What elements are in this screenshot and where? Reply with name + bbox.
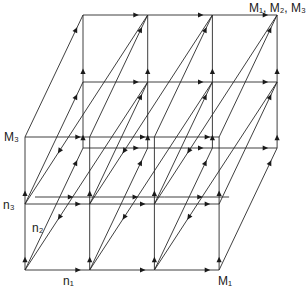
arrow-icon	[187, 214, 192, 220]
edge-n2	[25, 148, 83, 270]
edge-n2	[219, 148, 277, 270]
arrow-icon	[197, 194, 203, 199]
arrow-icon	[22, 257, 27, 263]
edge-n2	[90, 15, 148, 137]
arrow-icon	[217, 191, 222, 197]
lattice-diagram: M₁, M₂, M₃ M₃ n₃ n₂ n₁ M₁	[0, 0, 306, 288]
edge-n2	[25, 82, 83, 204]
arrow-icon	[152, 257, 157, 263]
edge-n2	[25, 15, 83, 137]
arrow-icon	[80, 69, 85, 75]
label-M1: M₁	[218, 275, 232, 287]
arrow-icon	[145, 69, 150, 75]
arrow-icon	[75, 134, 81, 139]
arrow-icon	[75, 267, 81, 272]
arrow-icon	[140, 201, 146, 206]
arrow-icon	[198, 145, 204, 150]
arrow-icon	[133, 12, 139, 17]
arrow-icon	[198, 79, 204, 84]
arrow-icon	[133, 79, 139, 84]
arrow-icon	[217, 257, 222, 263]
arrow-icon	[152, 191, 157, 197]
arrow-icon	[275, 69, 280, 75]
arrow-icon	[133, 145, 139, 150]
arrow-icon	[22, 191, 27, 197]
edge-n2	[219, 82, 277, 204]
arrow-icon	[140, 267, 146, 272]
arrow-icon	[263, 145, 269, 150]
arrow-icon	[123, 214, 128, 220]
arrow-icon	[68, 194, 74, 199]
arrow-icon	[140, 134, 146, 139]
arrow-icon	[275, 135, 280, 141]
arrow-icon	[87, 191, 92, 197]
arrow-icon	[205, 267, 211, 272]
edge-n2	[154, 15, 212, 137]
edge-n2	[90, 148, 148, 270]
arrow-icon	[198, 12, 204, 17]
label-m1-m2-m3: M₁, M₂, M₃	[249, 2, 306, 14]
label-n2: n₂	[32, 222, 43, 234]
edge-n2	[154, 82, 212, 204]
edge-n2	[90, 82, 148, 204]
label-n3: n₃	[3, 199, 15, 211]
edge-n2	[154, 148, 212, 270]
arrow-icon	[133, 194, 139, 199]
arrow-icon	[205, 201, 211, 206]
arrow-icon	[87, 257, 92, 263]
arrow-icon	[263, 79, 269, 84]
arrow-icon	[58, 214, 63, 220]
lattice-graph	[0, 0, 306, 288]
arrow-icon	[75, 201, 81, 206]
label-n1: n₁	[63, 275, 74, 287]
arrow-icon	[58, 147, 63, 153]
label-m3: M₃	[4, 131, 19, 143]
arrow-icon	[205, 134, 211, 139]
arrow-icon	[210, 69, 215, 75]
edge-n2	[219, 15, 277, 137]
